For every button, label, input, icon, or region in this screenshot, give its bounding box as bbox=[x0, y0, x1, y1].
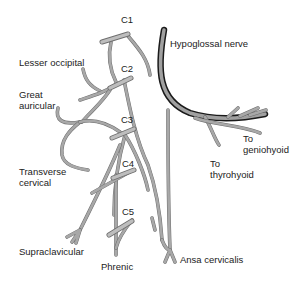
root-label-c3: C3 bbox=[121, 114, 133, 125]
label-hypoglossal-nerve: Hypoglossal nerve bbox=[170, 38, 248, 49]
label-great-auricular-2: auricular bbox=[19, 100, 55, 111]
label-to-thyrohyoid-1: To bbox=[210, 158, 220, 169]
label-supraclavicular: Supraclavicular bbox=[19, 246, 84, 257]
label-ansa-cervicalis: Ansa cervicalis bbox=[180, 254, 243, 265]
label-transverse-cervical-2: cervical bbox=[19, 177, 51, 188]
cervical-plexus-diagram bbox=[0, 0, 299, 283]
label-transverse-cervical-1: Transverse bbox=[19, 166, 66, 177]
label-to-geniohyoid-2: geniohyoid bbox=[243, 144, 289, 155]
label-great-auricular-1: Great bbox=[19, 89, 43, 100]
root-label-c5: C5 bbox=[122, 206, 134, 217]
root-c1 bbox=[102, 34, 128, 42]
root-c5 bbox=[109, 221, 132, 235]
label-phrenic: Phrenic bbox=[101, 261, 133, 272]
root-label-c4: C4 bbox=[122, 158, 134, 169]
label-to-geniohyoid-1: To bbox=[243, 133, 253, 144]
label-lesser-occipital: Lesser occipital bbox=[19, 57, 84, 68]
label-to-thyrohyoid-2: thyrohyoid bbox=[210, 169, 254, 180]
root-label-c1: C1 bbox=[121, 14, 133, 25]
root-label-c2: C2 bbox=[121, 63, 133, 74]
